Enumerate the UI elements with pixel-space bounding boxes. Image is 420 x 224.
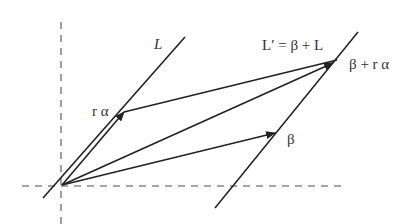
label-L: L	[154, 37, 162, 52]
label-beta-plus-r-alpha: β + r α	[349, 57, 389, 72]
vector-diagram	[0, 0, 420, 224]
label-beta: β	[287, 132, 295, 147]
translation-vector	[124, 60, 337, 112]
line-L-prime	[215, 32, 358, 208]
label-r-alpha: r α	[92, 104, 109, 119]
line-L	[43, 37, 185, 198]
label-L-prime: L′ = β + L	[262, 38, 323, 53]
r-alpha-vector	[62, 112, 124, 185]
beta-plus-r-alpha-vector	[62, 63, 333, 185]
